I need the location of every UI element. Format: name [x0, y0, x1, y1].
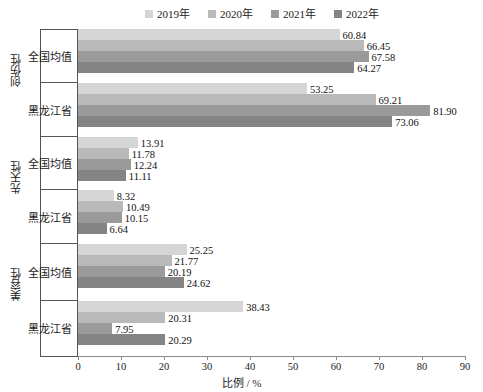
sub-label-national-3: 全国均值: [0, 264, 72, 280]
bar-value-label: 24.62: [185, 277, 211, 288]
x-tick-label-60: 60: [331, 361, 342, 372]
bar-row: 73.06: [78, 116, 465, 127]
bar-2022年-5: [78, 334, 165, 345]
bar-2019年-1: [78, 83, 307, 94]
bar-2019年-2: [78, 137, 138, 148]
x-tick-label-20: 20: [159, 361, 170, 372]
bar-2021年-2: [78, 159, 131, 170]
x-tick-60: [336, 356, 337, 360]
legend-label-2020: 2020年: [220, 9, 253, 20]
bar-row: 66.45: [78, 40, 465, 51]
bar-2020年-0: [78, 40, 364, 51]
bar-value-label: 20.31: [166, 312, 192, 323]
plot-area: 60.8466.4567.5864.2753.2569.2181.9073.06…: [78, 28, 465, 356]
bar-row: 69.21: [78, 94, 465, 105]
bar-value-label: 73.06: [393, 116, 419, 127]
bar-value-label: 13.91: [139, 137, 165, 148]
bar-2019年-5: [78, 301, 243, 312]
bar-row: 10.15: [78, 212, 465, 223]
x-tick-20: [164, 356, 165, 360]
bar-value-label: 10.15: [123, 212, 149, 223]
bar-row: 64.27: [78, 62, 465, 73]
bar-row: 67.58: [78, 51, 465, 62]
bar-2022年-3: [78, 223, 107, 234]
legend-swatch-2022: [334, 10, 342, 18]
bar-value-label: 60.84: [341, 29, 367, 40]
sub-label-heilongjiang-2: 黑龙江省: [0, 209, 72, 225]
bar-row: 20.29: [78, 334, 465, 345]
sub-divider-3: [40, 300, 77, 301]
x-tick-30: [207, 356, 208, 360]
bar-2020年-4: [78, 255, 172, 266]
x-tick-label-50: 50: [288, 361, 299, 372]
bar-row: 53.25: [78, 83, 465, 94]
bar-value-label: 25.25: [188, 244, 214, 255]
sub-divider-2: [40, 189, 77, 190]
x-tick-40: [250, 356, 251, 360]
x-axis-title: 比例 / %: [0, 374, 483, 390]
sub-label-heilongjiang-3: 黑龙江省: [0, 320, 72, 336]
x-tick-label-10: 10: [116, 361, 127, 372]
sub-divider-1: [40, 82, 77, 83]
x-tick-label-80: 80: [417, 361, 428, 372]
bar-value-label: 66.45: [365, 40, 391, 51]
bar-value-label: 7.95: [113, 323, 133, 334]
bar-row: 38.43: [78, 301, 465, 312]
bar-value-label: 21.77: [173, 255, 199, 266]
bar-2022年-2: [78, 170, 126, 181]
legend-item-2021: 2021年: [271, 9, 316, 20]
bar-group: 8.3210.4910.156.64: [78, 190, 465, 234]
x-tick-80: [422, 356, 423, 360]
bar-row: 7.95: [78, 323, 465, 334]
sub-label-national-2: 全国均值: [0, 155, 72, 171]
bar-row: 60.84: [78, 29, 465, 40]
legend-label-2019: 2019年: [157, 9, 190, 20]
bar-value-label: 38.43: [244, 301, 270, 312]
bar-2020年-2: [78, 148, 129, 159]
bar-row: 21.77: [78, 255, 465, 266]
bar-2022年-4: [78, 277, 184, 288]
bar-value-label: 6.64: [108, 223, 128, 234]
x-tick-label-40: 40: [245, 361, 256, 372]
group-divider-2: [40, 243, 78, 244]
bar-value-label: 81.90: [431, 105, 457, 116]
legend-label-2021: 2021年: [283, 9, 316, 20]
bar-2020年-1: [78, 94, 376, 105]
x-tick-label-70: 70: [374, 361, 385, 372]
bar-2021年-5: [78, 323, 112, 334]
chart-legend: 2019年 2020年 2021年 2022年: [145, 6, 445, 22]
bar-2021年-4: [78, 266, 165, 277]
bar-value-label: 11.11: [127, 170, 152, 181]
group-divider-bottom: [40, 356, 78, 357]
bar-row: 20.31: [78, 312, 465, 323]
bar-row: 6.64: [78, 223, 465, 234]
bar-value-label: 64.27: [355, 62, 381, 73]
x-tick-90: [465, 356, 466, 360]
bar-value-label: 8.32: [115, 190, 135, 201]
bar-2020年-3: [78, 201, 123, 212]
bar-row: 11.11: [78, 170, 465, 181]
bar-value-label: 69.21: [377, 94, 403, 105]
x-axis-line: [78, 356, 465, 357]
group-divider-top: [40, 29, 78, 30]
x-tick-label-0: 0: [75, 361, 80, 372]
x-tick-label-90: 90: [460, 361, 471, 372]
bar-2021年-1: [78, 105, 430, 116]
bar-group: 53.2569.2181.9073.06: [78, 83, 465, 127]
bar-row: 11.78: [78, 148, 465, 159]
bar-2022年-1: [78, 116, 392, 127]
bar-row: 81.90: [78, 105, 465, 116]
bar-row: 24.62: [78, 277, 465, 288]
bar-value-label: 10.49: [124, 201, 150, 212]
bar-value-label: 67.58: [370, 51, 396, 62]
bar-2022年-0: [78, 62, 354, 73]
legend-item-2022: 2022年: [334, 9, 379, 20]
bar-row: 20.19: [78, 266, 465, 277]
legend-label-2022: 2022年: [346, 9, 379, 20]
bar-row: 13.91: [78, 137, 465, 148]
bar-2020年-5: [78, 312, 165, 323]
bar-2019年-4: [78, 244, 187, 255]
bar-value-label: 20.19: [166, 266, 192, 277]
x-tick-10: [121, 356, 122, 360]
bar-value-label: 11.78: [130, 148, 155, 159]
